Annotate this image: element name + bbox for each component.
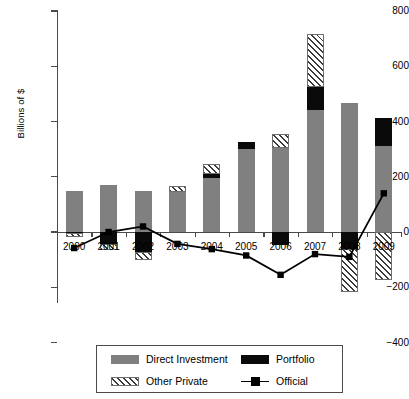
official-line-marker bbox=[381, 190, 387, 196]
official-line-swatch bbox=[241, 377, 269, 386]
official-line-marker bbox=[209, 246, 215, 252]
official-line-marker bbox=[140, 223, 146, 229]
legend-label-portfolio: Portfolio bbox=[276, 354, 315, 365]
legend-label-direct-investment: Direct Investment bbox=[146, 354, 228, 365]
legend-label-other-private: Other Private bbox=[146, 376, 208, 387]
portfolio-swatch bbox=[241, 355, 269, 364]
legend-item-official: Official bbox=[241, 370, 308, 392]
chart-container: Billions of $ −400−2000200400600800 2000… bbox=[0, 0, 409, 399]
legend-item-other-private: Other Private bbox=[111, 370, 208, 392]
legend-item-portfolio: Portfolio bbox=[241, 348, 315, 370]
chart-legend: Direct Investment Portfolio Other Privat… bbox=[96, 345, 343, 393]
official-line-marker bbox=[346, 254, 352, 260]
official-line-series bbox=[0, 0, 409, 340]
legend-item-direct-investment: Direct Investment bbox=[111, 348, 228, 370]
official-line-marker bbox=[71, 245, 77, 251]
official-line-marker bbox=[105, 229, 111, 235]
legend-label-official: Official bbox=[276, 376, 308, 387]
official-line-path bbox=[74, 193, 384, 274]
plot-area: Billions of $ −400−2000200400600800 2000… bbox=[0, 0, 409, 340]
official-line-marker bbox=[243, 252, 249, 258]
official-line-marker bbox=[277, 272, 283, 278]
other-private-swatch bbox=[111, 377, 139, 386]
direct-investment-swatch bbox=[111, 355, 139, 364]
official-line-marker bbox=[174, 241, 180, 247]
official-line-marker bbox=[312, 251, 318, 257]
y-axis-tick bbox=[51, 342, 57, 343]
